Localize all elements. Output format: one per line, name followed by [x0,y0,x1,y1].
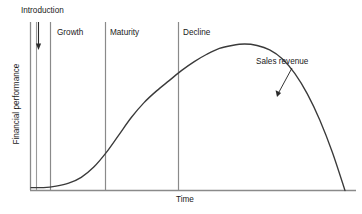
phase-label-maturity: Maturity [110,29,139,37]
x-axis-label: Time [176,196,194,204]
phase-label-introduction: Introduction [21,7,64,15]
sales-revenue-arrow-head [276,90,282,97]
y-axis-label: Financial performance [13,49,21,159]
phase-label-growth: Growth [57,29,83,37]
phase-label-decline: Decline [183,29,210,37]
series-label-sales-revenue: Sales revenue [256,58,308,66]
product-life-cycle-chart: Introduction Growth Maturity Decline Sal… [0,0,362,214]
sales-revenue-leader-line [279,68,292,92]
chart-canvas [0,0,362,214]
